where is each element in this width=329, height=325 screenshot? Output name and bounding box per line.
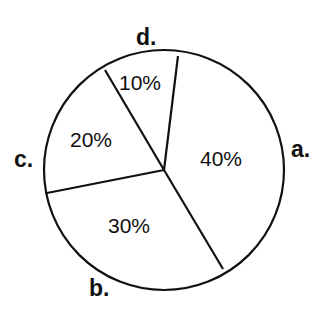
slice-a-percent: 40% (200, 147, 242, 170)
slice-d-percent: 10% (119, 71, 161, 94)
slice-b-label: b. (89, 275, 109, 301)
pie-chart: 40% 30% 20% 10% a. b. c. d. (0, 0, 329, 325)
slice-c-label: c. (14, 146, 33, 172)
slice-c-percent: 20% (70, 128, 112, 151)
slice-a-label: a. (291, 136, 310, 162)
slice-b-percent: 30% (108, 214, 150, 237)
slice-d-label: d. (136, 24, 156, 50)
